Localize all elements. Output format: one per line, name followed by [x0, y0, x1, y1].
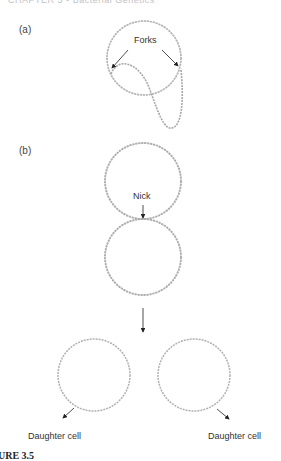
- daughter-arrow-left: [63, 408, 74, 418]
- fork-arrow-right: [162, 50, 178, 66]
- daughter-chromosome-left: [58, 339, 130, 411]
- replicated-loop: [111, 64, 182, 128]
- panel-b-dna: [58, 143, 230, 419]
- fork-arrow-left: [112, 50, 128, 68]
- figure-caption: URE 3.5: [0, 450, 34, 461]
- daughter-chromosome-right: [158, 339, 230, 411]
- daughter-arrow-right: [217, 409, 229, 419]
- lower-chromosome-circle: [105, 219, 181, 295]
- panel-a-dna: [107, 21, 182, 128]
